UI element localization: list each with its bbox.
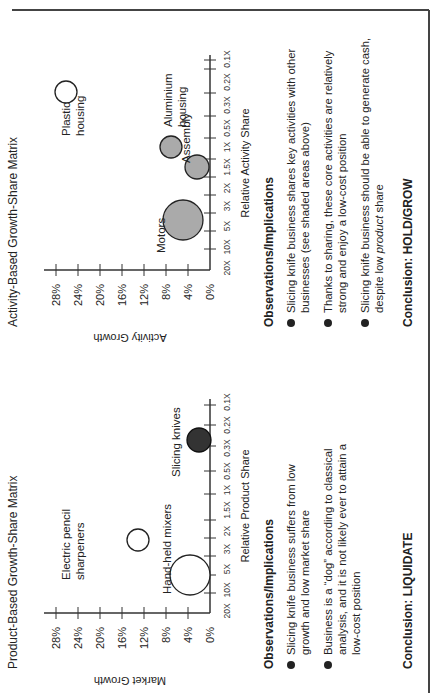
- activity-ylabel: Activity Growth: [93, 332, 166, 344]
- activity-ytick: 8%: [160, 284, 172, 300]
- activity-ytick: 20%: [94, 284, 106, 306]
- svg-text:1X: 1X: [222, 141, 232, 152]
- label-aluminium: Aluminium: [162, 73, 174, 127]
- label-motors: Motors: [155, 218, 167, 253]
- svg-text:5X: 5X: [222, 220, 232, 231]
- activity-ytick: 16%: [116, 284, 128, 306]
- activity-ytick: 0%: [204, 284, 216, 300]
- activity-ytick: 28%: [50, 284, 62, 306]
- activity-ytick: 24%: [72, 284, 84, 306]
- activity-xlabel: Relative Activity Share: [239, 108, 251, 217]
- svg-text:0.3X: 0.3X: [222, 96, 232, 114]
- activity-conclusion: Conclusion: HOLD/GROW: [401, 178, 415, 327]
- svg-text:3X: 3X: [222, 200, 232, 211]
- label-plastic2: housing: [74, 96, 86, 136]
- page: Product-Based Growth-Share Matrix 0% 4% …: [0, 0, 440, 693]
- activity-bullet: Slicing knife business shares key activi…: [284, 17, 312, 327]
- svg-text:2X: 2X: [222, 182, 232, 193]
- bubble-aluminium-housing: [160, 136, 182, 158]
- activity-bullet: Slicing knife business should be able to…: [358, 17, 386, 327]
- svg-text:20X: 20X: [222, 260, 232, 275]
- svg-text:0.5X: 0.5X: [222, 119, 232, 137]
- svg-text:0.2X: 0.2X: [222, 73, 232, 91]
- svg-text:1.5X: 1.5X: [222, 158, 232, 176]
- svg-text:0.1X: 0.1X: [222, 50, 232, 68]
- activity-bullet: Thanks to sharing, these core activities…: [321, 17, 349, 327]
- label-aluminium2: housing: [176, 87, 188, 127]
- bubble-motors: [163, 200, 203, 240]
- activity-obs-heading: Observations/Implications: [262, 17, 276, 327]
- label-plastic: Plastic: [60, 102, 72, 136]
- activity-observations: Observations/Implications Slicing knife …: [262, 17, 395, 327]
- activity-ytick: 4%: [182, 284, 194, 300]
- activity-ytick: 12%: [138, 284, 150, 306]
- svg-text:10X: 10X: [222, 239, 232, 254]
